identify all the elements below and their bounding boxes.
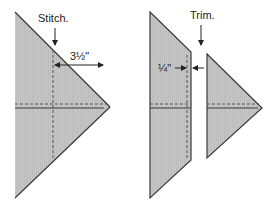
right-diagram-trim: Trim. ¼" [150,9,262,198]
seam-allowance-label: ¼" [158,62,171,74]
left-diagram-stitch: Stitch. 3½" [15,12,110,198]
dimension-label-3-5: 3½" [70,50,89,62]
kept-fabric-piece [150,12,191,198]
trim-label: Trim. [190,9,215,21]
stitch-label: Stitch. [38,12,69,24]
quilt-trim-diagram: Stitch. 3½" Trim. ¼" [0,0,276,210]
folded-triangle-fabric [15,12,110,198]
trimmed-fabric-piece [207,54,262,158]
